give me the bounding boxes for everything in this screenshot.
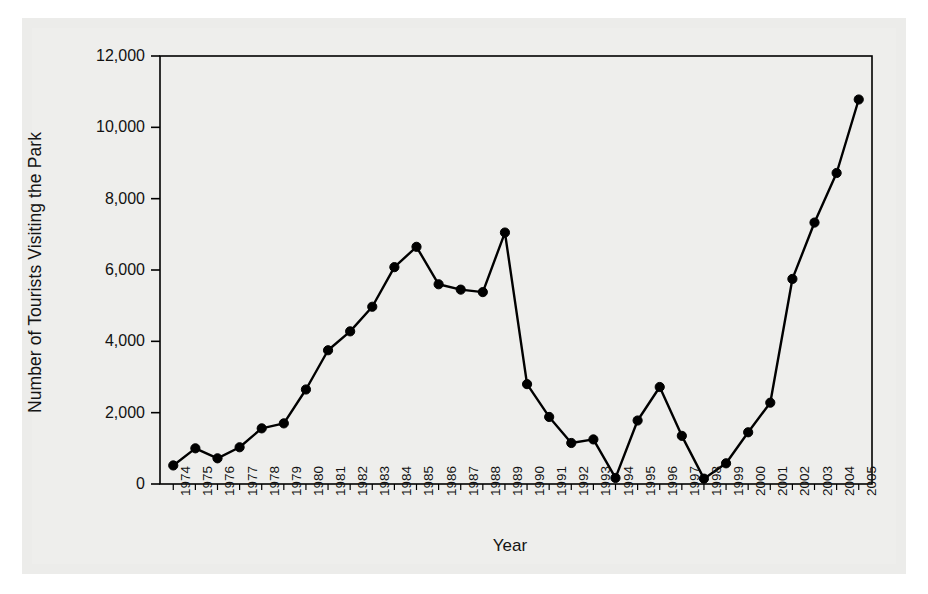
data-point-marker [478, 288, 487, 297]
x-tick-label: 1997 [687, 466, 702, 496]
data-point-marker [633, 416, 642, 425]
x-tick-label: 1988 [488, 466, 503, 496]
x-tick-label: 2005 [864, 466, 879, 496]
x-tick-label: 1999 [731, 466, 746, 496]
x-tick-label: 1995 [643, 466, 658, 496]
y-tick-label: 6,000 [55, 261, 145, 279]
y-tick-label: 2,000 [55, 404, 145, 422]
x-tick-label: 1981 [333, 466, 348, 496]
data-point-marker [788, 274, 797, 283]
y-tick-label: 0 [55, 475, 145, 493]
y-tick-label: 10,000 [55, 118, 145, 136]
y-tick-label: 12,000 [55, 47, 145, 65]
x-tick-label: 2001 [775, 466, 790, 496]
line-chart: Number of Tourists Visiting the Park Yea… [0, 0, 928, 594]
x-tick-label: 1998 [709, 466, 724, 496]
data-point-marker [655, 382, 664, 391]
x-tick-label: 1989 [510, 466, 525, 496]
x-tick-label: 1990 [532, 466, 547, 496]
x-tick-label: 1987 [466, 466, 481, 496]
data-point-marker [677, 431, 686, 440]
data-point-marker [810, 218, 819, 227]
x-tick-label: 2004 [842, 466, 857, 496]
y-axis-label: Number of Tourists Visiting the Park [25, 63, 46, 483]
data-point-marker [301, 385, 310, 394]
x-tick-label: 1978 [267, 466, 282, 496]
x-tick-label: 1974 [178, 466, 193, 496]
data-point-marker [412, 242, 421, 251]
data-point-marker [766, 398, 775, 407]
x-tick-label: 1976 [222, 466, 237, 496]
data-point-marker [323, 346, 332, 355]
data-point-marker [346, 327, 355, 336]
data-point-marker [500, 228, 509, 237]
data-point-marker [390, 263, 399, 272]
data-point-marker [213, 454, 222, 463]
x-tick-label: 1979 [289, 466, 304, 496]
data-point-marker [169, 461, 178, 470]
x-tick-label: 1993 [598, 466, 613, 496]
y-tick-label: 8,000 [55, 190, 145, 208]
data-point-marker [522, 380, 531, 389]
x-tick-label: 1996 [665, 466, 680, 496]
data-point-marker [854, 95, 863, 104]
x-tick-label: 2003 [820, 466, 835, 496]
data-point-marker [456, 285, 465, 294]
data-point-marker [567, 438, 576, 447]
axis-lines [160, 56, 872, 484]
data-point-marker [257, 424, 266, 433]
data-point-marker [545, 412, 554, 421]
data-point-marker [191, 444, 200, 453]
x-tick-label: 2002 [797, 466, 812, 496]
data-point-marker [235, 443, 244, 452]
x-tick-label: 1991 [554, 466, 569, 496]
data-point-marker [589, 435, 598, 444]
x-tick-label: 1983 [377, 466, 392, 496]
data-point-marker [744, 428, 753, 437]
x-tick-label: 1984 [399, 466, 414, 496]
data-point-marker [434, 280, 443, 289]
x-tick-label: 1977 [245, 466, 260, 496]
y-tick-label: 4,000 [55, 332, 145, 350]
data-point-marker [832, 168, 841, 177]
data-point-marker [279, 419, 288, 428]
y-tick-marks [151, 56, 160, 484]
data-point-marker [368, 302, 377, 311]
x-tick-label: 1980 [311, 466, 326, 496]
plot-area [0, 0, 928, 594]
x-tick-label: 1986 [444, 466, 459, 496]
x-tick-label: 1975 [200, 466, 215, 496]
chart-figure: Number of Tourists Visiting the Park Yea… [0, 0, 928, 594]
x-tick-label: 1982 [355, 466, 370, 496]
x-axis-label: Year [160, 536, 860, 556]
x-tick-label: 1994 [621, 466, 636, 496]
x-tick-label: 1992 [576, 466, 591, 496]
data-line-series [173, 100, 858, 479]
x-tick-label: 2000 [753, 466, 768, 496]
x-tick-label: 1985 [421, 466, 436, 496]
